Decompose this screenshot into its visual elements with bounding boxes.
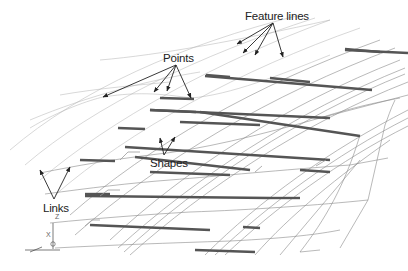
points-arrow [167, 65, 176, 91]
links-arrow [54, 167, 70, 199]
shape-bar-group [80, 49, 408, 252]
diagram-canvas: X Z Feature lines Points Shapes Links [0, 0, 408, 271]
points-arrow [154, 65, 176, 92]
cross-section-group [30, 20, 408, 252]
label-links: Links [43, 202, 69, 214]
axis-triad: X Z [25, 213, 60, 252]
points-arrow [176, 65, 191, 98]
axis-z-label: Z [55, 213, 60, 220]
feature-lines-arrow [273, 23, 283, 57]
wireframe-surface: X Z [10, 15, 408, 255]
label-feature-lines: Feature lines [245, 10, 309, 22]
label-points: Points [163, 52, 194, 64]
label-shapes: Shapes [150, 157, 188, 169]
axis-x-label: X [46, 231, 51, 238]
